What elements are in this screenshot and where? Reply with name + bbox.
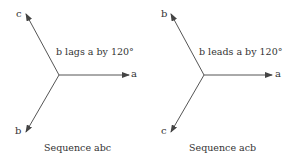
phasor-c-arrow [26, 14, 59, 75]
phasor-label-a: a [131, 69, 137, 79]
phasor-label-b: b [161, 9, 167, 19]
phasor-label-b: b [15, 126, 21, 136]
phasor-label-a: a [275, 69, 281, 79]
caption-acb: Sequence acb [189, 143, 256, 153]
annotation-abc: b lags a by 120° [56, 47, 134, 57]
caption-abc: Sequence abc [44, 143, 111, 153]
phasor-label-c: c [161, 126, 167, 136]
phasor-diagrams [0, 0, 292, 159]
phasor-c-arrow [171, 75, 204, 132]
phasor-b-arrow [171, 14, 204, 75]
annotation-acb: b leads a by 120° [199, 47, 282, 57]
phasor-b-arrow [26, 75, 59, 132]
diagram-abc [26, 14, 129, 132]
phasor-label-c: c [16, 9, 22, 19]
diagram-acb [171, 14, 272, 132]
